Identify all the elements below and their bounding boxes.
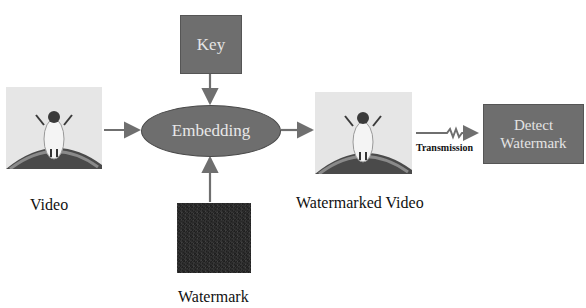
key-box: Key — [180, 15, 242, 74]
video-frame-icon — [6, 87, 102, 169]
video-label: Video — [30, 196, 68, 214]
watermark-pattern — [177, 203, 251, 273]
transmission-label: Transmission — [416, 142, 473, 153]
detect-watermark-box: Detect Watermark — [483, 104, 584, 164]
watermark-label: Watermark — [178, 288, 249, 306]
embedding-node: Embedding — [141, 105, 281, 157]
watermarked-video-thumbnail — [315, 92, 412, 174]
key-label: Key — [197, 35, 225, 55]
watermarked-video-label: Watermarked Video — [296, 194, 424, 212]
video-thumbnail — [6, 87, 102, 169]
detect-label-line1: Detect — [514, 116, 553, 134]
detect-label-line2: Watermark — [500, 134, 566, 152]
video-frame-icon — [315, 92, 412, 174]
embedding-label: Embedding — [172, 121, 250, 141]
